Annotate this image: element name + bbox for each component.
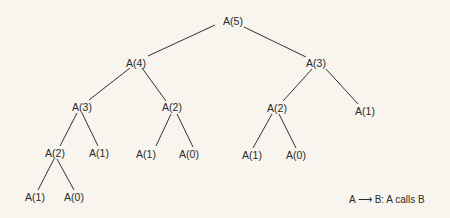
tree-node: A(2) [267, 102, 287, 114]
tree-node: A(2) [45, 147, 65, 159]
tree-edge [253, 114, 272, 148]
tree-edge [279, 114, 296, 148]
tree-edge [244, 27, 306, 57]
tree-node: A(1) [25, 191, 45, 203]
tree-edge [57, 159, 74, 190]
tree-node: A(0) [64, 191, 84, 203]
tree-node: A(2) [162, 101, 182, 113]
tree-edge [326, 69, 358, 104]
tree-node: A(1) [242, 149, 262, 161]
tree-edge [60, 113, 77, 146]
arrow-icon: ⟶ [358, 194, 372, 205]
tree-edge [38, 159, 54, 190]
tree-edge [82, 113, 98, 146]
tree-edge [89, 68, 130, 100]
tree-edge [283, 69, 312, 101]
legend-from: A [349, 194, 355, 205]
tree-node: A(1) [355, 105, 375, 117]
tree-edges [0, 0, 450, 218]
tree-node: A(1) [136, 148, 156, 160]
tree-edge [177, 114, 193, 147]
tree-edge [148, 25, 215, 56]
legend-desc: : A calls B [381, 194, 424, 205]
tree-node: A(4) [126, 57, 146, 69]
tree-node: A(0) [286, 149, 306, 161]
tree-edge [142, 68, 166, 101]
tree-node: A(5) [223, 15, 243, 27]
tree-edge [156, 114, 171, 146]
tree-node: A(3) [72, 101, 92, 113]
tree-node: A(3) [306, 57, 326, 69]
tree-node: A(0) [179, 148, 199, 160]
tree-node: A(1) [89, 147, 109, 159]
legend: A ⟶ B: A calls B [349, 194, 425, 205]
